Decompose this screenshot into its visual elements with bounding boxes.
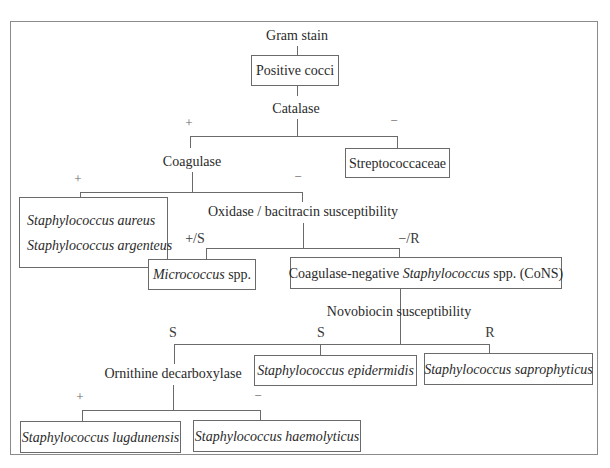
- ornithine-negative-sign: −: [254, 389, 261, 403]
- ornithine-bracket: [82, 410, 261, 411]
- micrococcus-box: Micrococcus spp.: [148, 259, 256, 290]
- coagulase-positive-sign: +: [74, 172, 81, 186]
- streptococcaceae-label: Streptococcaceae: [349, 154, 446, 173]
- novobiocin-s-label-2: S: [317, 326, 325, 340]
- connector-line: [297, 46, 298, 55]
- s-saprophyticus-label: Staphylococcus saprophyticus: [424, 360, 593, 379]
- connector-line: [260, 410, 261, 420]
- s-aureus-label: Staphylococcus aureus: [27, 208, 161, 233]
- gram-stain-label: Gram stain: [266, 28, 328, 44]
- oxidase-negative-label: −/R: [398, 232, 419, 246]
- s-haemolyticus-box: Staphylococcus haemolyticus: [193, 420, 361, 452]
- novobiocin-bracket: [174, 344, 490, 345]
- s-epidermidis-label: Staphylococcus epidermidis: [257, 361, 414, 380]
- s-argenteus-label: Staphylococcus argenteus: [27, 233, 161, 258]
- catalase-label: Catalase: [272, 101, 319, 117]
- connector-line: [174, 344, 175, 364]
- micrococcus-suffix: spp.: [225, 267, 251, 282]
- coagulase-negative-sign: −: [294, 170, 301, 184]
- coagulase-bracket: [80, 192, 303, 193]
- ornithine-positive-sign: +: [76, 390, 83, 404]
- cons-box: Coagulase-negative Staphylococcus spp. (…: [290, 257, 562, 289]
- streptococcaceae-box: Streptococcaceae: [345, 148, 450, 178]
- connector-line: [303, 223, 304, 248]
- connector-line: [192, 172, 193, 192]
- s-saprophyticus-box: Staphylococcus saprophyticus: [424, 353, 593, 385]
- s-epidermidis-box: Staphylococcus epidermidis: [254, 355, 417, 386]
- connector-line: [173, 385, 174, 410]
- connector-line: [190, 136, 191, 148]
- connector-line: [397, 136, 398, 148]
- coagulase-positive-box: Staphylococcus aureus Staphylococcus arg…: [19, 197, 168, 268]
- s-haemolyticus-label: Staphylococcus haemolyticus: [195, 427, 359, 446]
- oxidase-positive-label: +/S: [185, 232, 205, 246]
- cons-genus: Staphylococcus: [403, 266, 490, 281]
- novobiocin-s-label-1: S: [169, 326, 177, 340]
- catalase-bracket: [190, 136, 398, 137]
- positive-cocci-box: Positive cocci: [251, 55, 339, 86]
- micrococcus-genus: Micrococcus: [153, 267, 225, 282]
- connector-line: [320, 344, 321, 355]
- connector-line: [302, 192, 303, 202]
- positive-cocci-label: Positive cocci: [256, 61, 334, 80]
- connector-line: [82, 410, 83, 421]
- connector-line: [399, 248, 400, 257]
- connector-line: [297, 119, 298, 136]
- s-lugdunensis-label: Staphylococcus lugdunensis: [22, 428, 179, 447]
- catalase-negative-sign: −: [390, 114, 397, 128]
- ornithine-label: Ornithine decarboxylase: [104, 366, 241, 382]
- coagulase-label: Coagulase: [163, 154, 221, 170]
- cons-suffix: spp. (CoNS): [490, 266, 564, 281]
- cons-label: Coagulase-negative Staphylococcus spp. (…: [289, 264, 564, 283]
- novobiocin-r-label: R: [485, 326, 494, 340]
- oxidase-bracket: [206, 248, 400, 249]
- catalase-positive-sign: +: [185, 116, 192, 130]
- connector-line: [489, 344, 490, 353]
- connector-line: [206, 248, 207, 259]
- cons-prefix: Coagulase-negative: [289, 266, 403, 281]
- micrococcus-label: Micrococcus spp.: [153, 265, 251, 284]
- s-lugdunensis-box: Staphylococcus lugdunensis: [20, 421, 181, 453]
- oxidase-bacitracin-label: Oxidase / bacitracin susceptibility: [208, 204, 398, 220]
- novobiocin-label: Novobiocin susceptibility: [327, 304, 471, 320]
- connector-line: [297, 86, 298, 96]
